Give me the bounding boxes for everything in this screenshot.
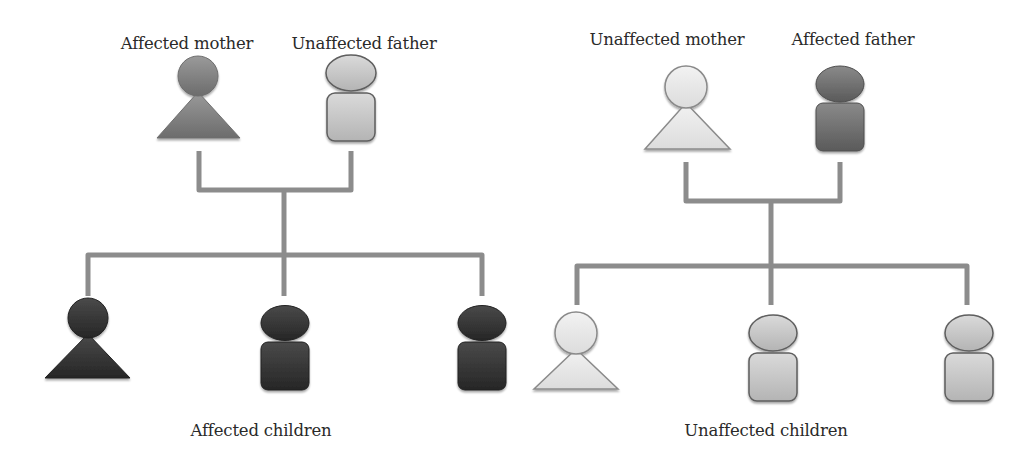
left-mating-line <box>199 151 351 190</box>
right-mating-line <box>686 162 840 201</box>
unaffected-mother-icon <box>645 66 730 149</box>
unaffected-father-label: Unaffected father <box>291 36 436 53</box>
affected-father-label: Affected father <box>792 32 915 49</box>
affected-mother-label: Affected mother <box>121 36 254 53</box>
pedigree-graphics <box>0 0 1026 464</box>
unaffected-son-2-icon <box>945 315 993 401</box>
unaffected-father-icon <box>326 55 376 141</box>
affected-son-1-icon <box>261 306 309 391</box>
left-family-connectors <box>88 151 482 296</box>
affected-mother-icon <box>157 56 240 138</box>
affected-son-2-icon <box>458 306 506 391</box>
unaffected-mother-label: Unaffected mother <box>590 32 745 49</box>
affected-daughter-icon <box>45 298 130 378</box>
right-family-connectors <box>577 162 967 305</box>
unaffected-daughter-icon <box>534 312 618 389</box>
unaffected-son-1-icon <box>749 315 797 401</box>
unaffected-children-caption: Unaffected children <box>684 423 847 440</box>
affected-children-caption: Affected children <box>191 423 332 440</box>
affected-father-icon <box>816 66 864 151</box>
pedigree-diagram: Affected mother Unaffected father Affect… <box>0 0 1026 464</box>
